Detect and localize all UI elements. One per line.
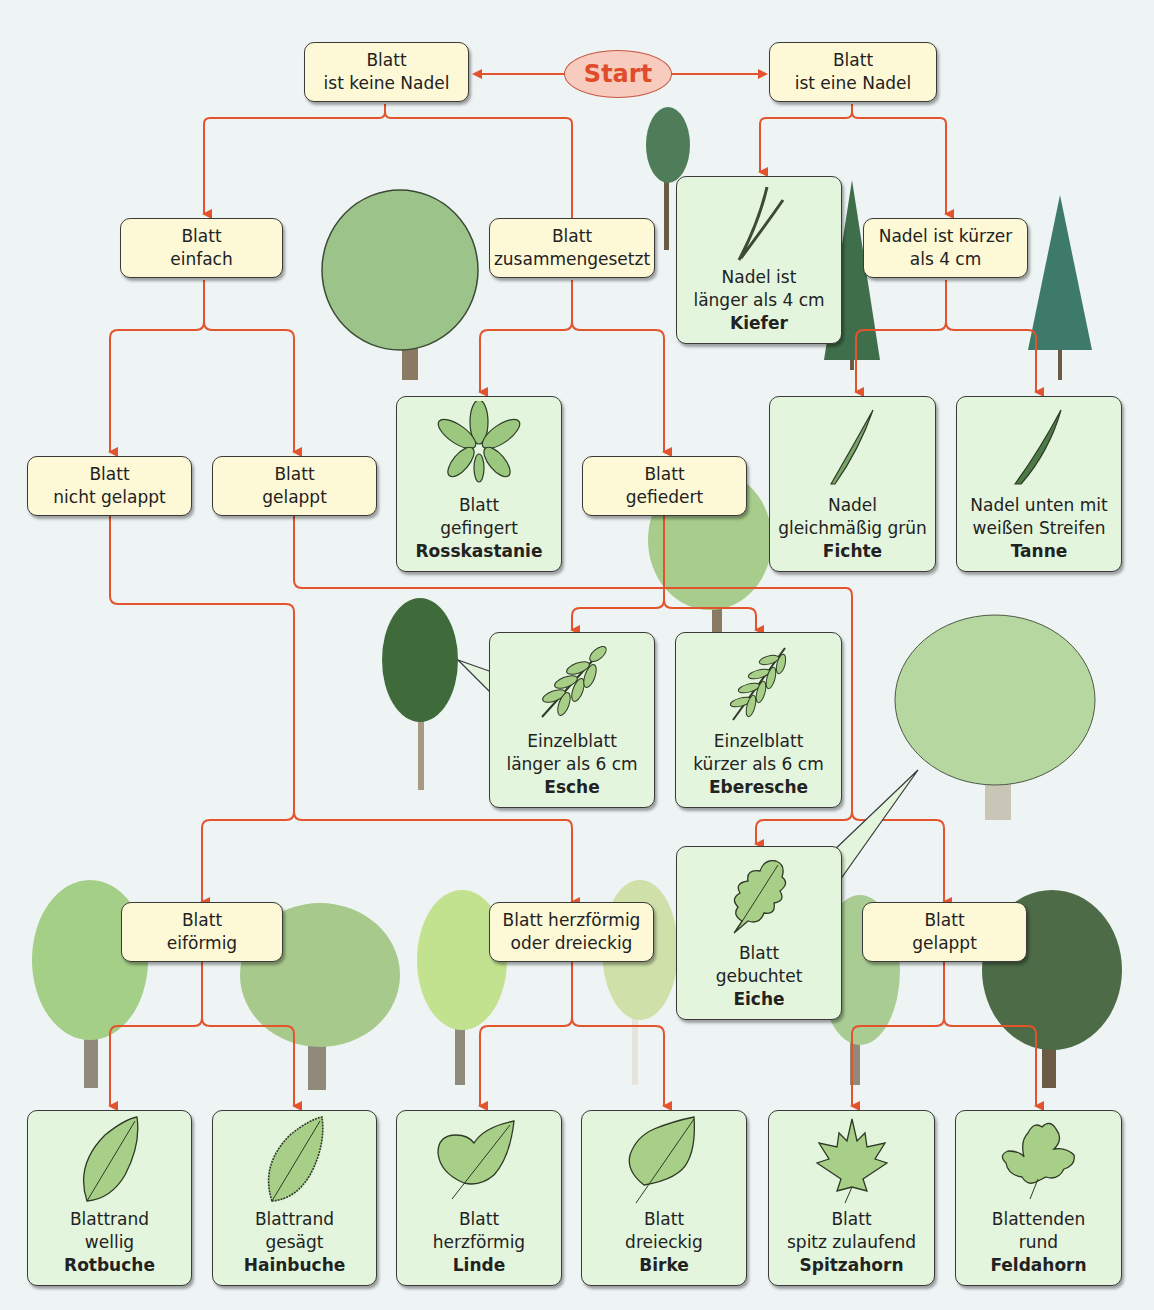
answer-line-2: weißen Streifen	[957, 517, 1121, 540]
question-line-1: Blatt	[490, 225, 654, 248]
tree-name: Feldahorn	[956, 1254, 1121, 1277]
question-blatt-gefiedert: Blatt gefiedert	[582, 456, 747, 516]
answer-line-2: rund	[956, 1231, 1121, 1254]
norway-maple-leaf-icon	[769, 1111, 934, 1208]
answer-line-1: Einzelblatt	[676, 730, 841, 753]
tree-name: Rosskastanie	[397, 540, 561, 563]
answer-kiefer: Nadel ist länger als 4 cm Kiefer	[676, 176, 842, 344]
question-line-2: nicht gelappt	[28, 486, 191, 509]
question-line-2: einfach	[121, 248, 282, 271]
answer-line-2: dreieckig	[582, 1231, 746, 1254]
question-blatt-einfach: Blatt einfach	[120, 218, 283, 278]
pinnate-leaf-small-icon	[676, 633, 841, 730]
question-line-2: gefiedert	[583, 486, 746, 509]
answer-rotbuche: Blattrand wellig Rotbuche	[27, 1110, 192, 1286]
answer-tanne: Nadel unten mit weißen Streifen Tanne	[956, 396, 1122, 572]
answer-fichte: Nadel gleichmäßig grün Fichte	[769, 396, 936, 572]
question-line-2: oder dreieckig	[490, 932, 653, 955]
start-label: Start	[584, 60, 652, 88]
answer-linde: Blatt herzförmig Linde	[396, 1110, 562, 1286]
answer-line-1: Blatt	[769, 1208, 934, 1231]
answer-line-2: gesägt	[213, 1231, 376, 1254]
answer-line-2: gebuchtet	[677, 965, 841, 988]
spruce-needle-icon	[770, 397, 935, 494]
answer-line-2: wellig	[28, 1231, 191, 1254]
tree-name: Eiche	[677, 988, 841, 1011]
question-blatt-eifoermig: Blatt eiförmig	[121, 902, 283, 962]
question-line-1: Blatt	[122, 909, 282, 932]
answer-line-2: gefingert	[397, 517, 561, 540]
question-blatt-keine-nadel: Blatt ist keine Nadel	[304, 42, 469, 102]
answer-feldahorn: Blattenden rund Feldahorn	[955, 1110, 1122, 1286]
question-line-2: gelappt	[863, 932, 1026, 955]
question-line-1: Blatt	[305, 49, 468, 72]
hornbeam-leaf-icon	[213, 1111, 376, 1208]
tree-name: Eberesche	[676, 776, 841, 799]
question-blatt-gelappt: Blatt gelappt	[212, 456, 377, 516]
question-blatt-zusammengesetzt: Blatt zusammengesetzt	[489, 218, 655, 278]
question-nadel-kuerzer-4cm: Nadel ist kürzer als 4 cm	[863, 218, 1028, 278]
answer-line-2: länger als 4 cm	[677, 289, 841, 312]
tree-name: Birke	[582, 1254, 746, 1277]
answer-eiche: Blatt gebuchtet Eiche	[676, 846, 842, 1020]
answer-line-2: herzförmig	[397, 1231, 561, 1254]
answer-eberesche: Einzelblatt kürzer als 6 cm Eberesche	[675, 632, 842, 808]
answer-line-2: gleichmäßig grün	[770, 517, 935, 540]
question-line-1: Blatt	[121, 225, 282, 248]
ash-tree-icon	[382, 598, 458, 790]
tree-name: Kiefer	[677, 312, 841, 335]
question-line-1: Blatt	[28, 463, 191, 486]
question-blatt-gelappt-2: Blatt gelappt	[862, 902, 1027, 962]
tree-name: Linde	[397, 1254, 561, 1277]
answer-line-1: Nadel unten mit	[957, 494, 1121, 517]
answer-hainbuche: Blattrand gesägt Hainbuche	[212, 1110, 377, 1286]
question-line-1: Blatt	[770, 49, 936, 72]
question-line-1: Nadel ist kürzer	[864, 225, 1027, 248]
answer-line-2: länger als 6 cm	[490, 753, 654, 776]
fir-tree-icon	[1028, 195, 1092, 380]
tree-name: Fichte	[770, 540, 935, 563]
oak-leaf-icon	[677, 847, 841, 942]
answer-line-1: Blatt	[582, 1208, 746, 1231]
question-blatt-herzfoermig-dreieckig: Blatt herzförmig oder dreieckig	[489, 902, 654, 962]
answer-spitzahorn: Blatt spitz zulaufend Spitzahorn	[768, 1110, 935, 1286]
oak-tree-icon	[895, 615, 1095, 820]
tree-name: Rotbuche	[28, 1254, 191, 1277]
horse-chestnut-tree-icon	[322, 190, 478, 380]
fir-needle-icon	[957, 397, 1121, 494]
tree-name: Spitzahorn	[769, 1254, 934, 1277]
question-line-1: Blatt herzförmig	[490, 909, 653, 932]
answer-line-1: Blatt	[397, 1208, 561, 1231]
question-line-2: gelappt	[213, 486, 376, 509]
question-line-1: Blatt	[863, 909, 1026, 932]
question-line-2: als 4 cm	[864, 248, 1027, 271]
answer-line-1: Nadel ist	[677, 266, 841, 289]
question-line-2: ist keine Nadel	[305, 72, 468, 95]
answer-rosskastanie: Blatt gefingert Rosskastanie	[396, 396, 562, 572]
tree-name: Esche	[490, 776, 654, 799]
start-node: Start	[564, 50, 672, 98]
question-line-2: zusammengesetzt	[490, 248, 654, 271]
question-line-1: Blatt	[213, 463, 376, 486]
answer-line-1: Blattenden	[956, 1208, 1121, 1231]
answer-line-1: Blattrand	[213, 1208, 376, 1231]
beech-leaf-icon	[28, 1111, 191, 1208]
question-line-2: ist eine Nadel	[770, 72, 936, 95]
answer-line-1: Blatt	[677, 942, 841, 965]
linden-leaf-icon	[397, 1111, 561, 1208]
pine-needle-pair-icon	[677, 177, 841, 266]
answer-line-1: Blatt	[397, 494, 561, 517]
pinnate-leaf-icon	[490, 633, 654, 730]
answer-line-2: spitz zulaufend	[769, 1231, 934, 1254]
answer-birke: Blatt dreieckig Birke	[581, 1110, 747, 1286]
palmate-leaf-icon	[397, 397, 561, 494]
answer-line-1: Nadel	[770, 494, 935, 517]
answer-line-2: kürzer als 6 cm	[676, 753, 841, 776]
answer-line-1: Blattrand	[28, 1208, 191, 1231]
tree-name: Tanne	[957, 540, 1121, 563]
birch-leaf-icon	[582, 1111, 746, 1208]
question-blatt-nicht-gelappt: Blatt nicht gelappt	[27, 456, 192, 516]
answer-line-1: Einzelblatt	[490, 730, 654, 753]
question-line-1: Blatt	[583, 463, 746, 486]
question-line-2: eiförmig	[122, 932, 282, 955]
